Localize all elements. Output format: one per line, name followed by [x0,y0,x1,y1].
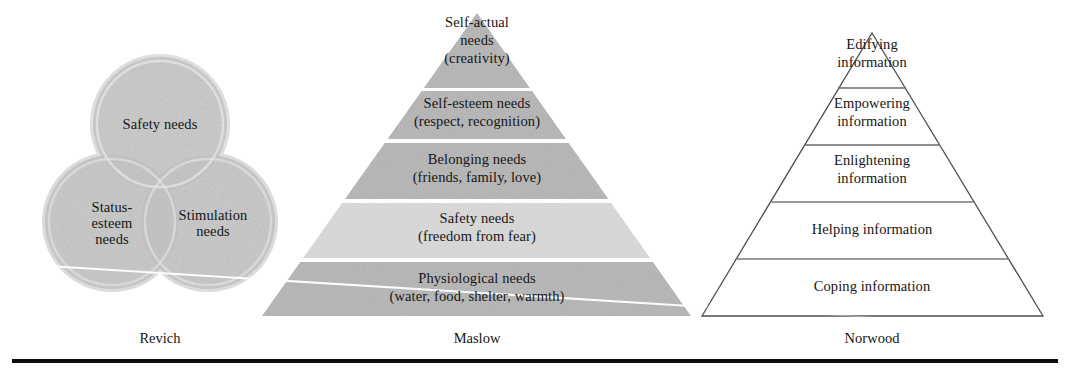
maslow-label-self-actualization-line2: needs [417,32,537,48]
norwood-label-edifying-line1: Edifying [822,36,922,52]
revich-label-stimulation: Stimulation needs [158,207,268,239]
maslow-separator-4 [250,258,705,262]
maslow-separator-2 [250,139,705,143]
norwood-label-enlightening-line1: Enlightening [807,152,937,168]
revich-label-status-esteem: Status- esteem needs [62,199,162,248]
maslow-label-belonging-line2: (friends, family, love) [382,169,572,185]
norwood-label-empowering-line2: information [812,113,932,129]
maslow-label-self-actualization-line3: (creativity) [417,50,537,66]
figure-canvas: Safety needs Status- esteem needs Stimul… [0,0,1076,375]
norwood-label-enlightening-line2: information [812,170,932,186]
revich-label-safety: Safety needs [100,116,220,132]
caption-norwood: Norwood [812,330,932,347]
caption-revich: Revich [100,330,220,347]
revich-venn-diagram [42,54,278,292]
maslow-separator-3 [250,199,705,203]
norwood-label-coping: Coping information [782,278,962,294]
maslow-label-safety-line2: (freedom from fear) [382,228,572,244]
norwood-label-helping: Helping information [782,221,962,237]
bottom-rule [12,359,1058,363]
maslow-label-self-actualization-line1: Self-actual [417,14,537,30]
norwood-label-edifying-line2: information [812,54,932,70]
maslow-label-self-esteem-line2: (respect, recognition) [377,113,577,129]
maslow-separator-1 [250,88,705,91]
maslow-label-physiological-line2: (water, food, shelter, warmth) [357,288,597,304]
maslow-label-self-esteem-line1: Self-esteem needs [387,95,567,111]
maslow-label-belonging-line1: Belonging needs [392,151,562,167]
maslow-label-physiological-line1: Physiological needs [387,270,567,286]
maslow-label-safety-line1: Safety needs [412,210,542,226]
caption-maslow: Maslow [417,330,537,347]
norwood-label-empowering-line1: Empowering [812,95,932,111]
